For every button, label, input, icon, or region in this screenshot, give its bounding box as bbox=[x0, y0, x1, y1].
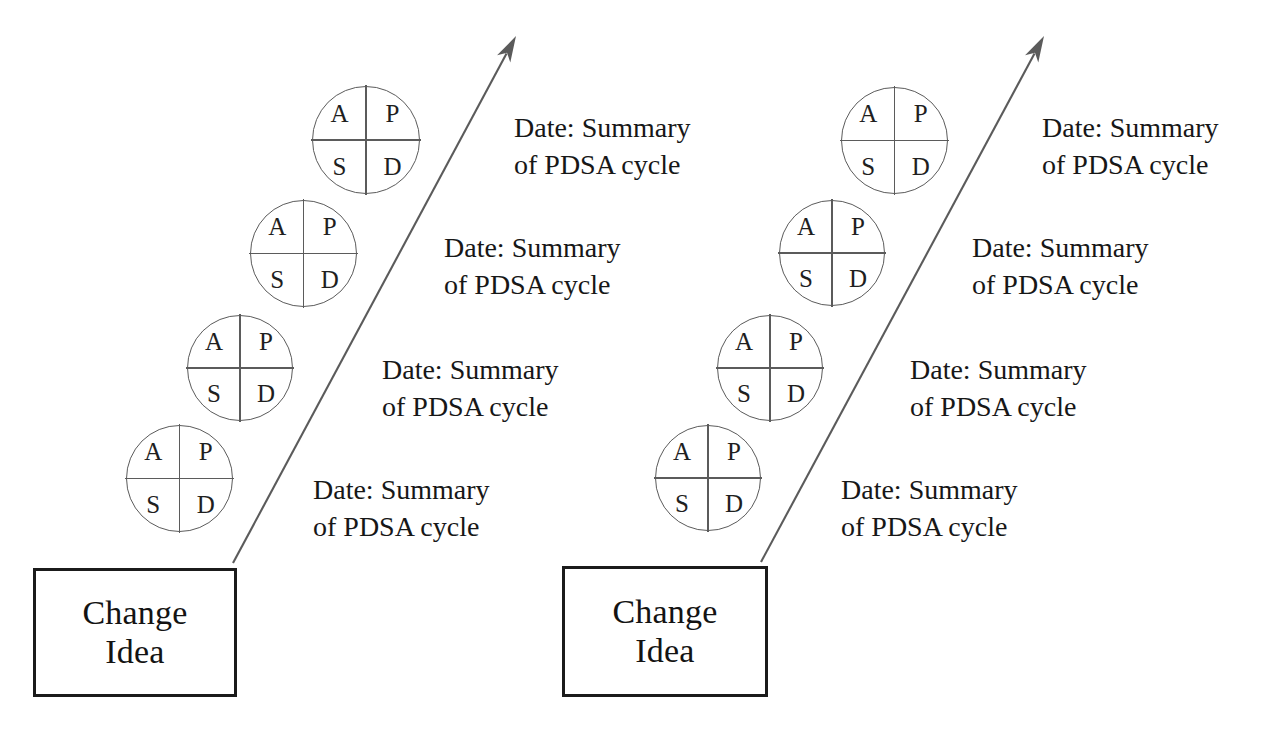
pdsa-cycle-summary: Date: Summaryof PDSA cycle bbox=[841, 472, 1018, 546]
pdsa-quadrant-act: A bbox=[780, 201, 832, 253]
ramp-group: APSDDate: Summaryof PDSA cycleAPSDDate: … bbox=[0, 0, 1267, 730]
pdsa-quadrant-plan: P bbox=[895, 88, 948, 141]
change-idea-line-2: Idea bbox=[635, 632, 694, 671]
pdsa-cycle-summary: Date: Summaryof PDSA cycle bbox=[1042, 110, 1219, 184]
summary-line-2: of PDSA cycle bbox=[841, 509, 1018, 546]
pdsa-cycle-circle: APSD bbox=[655, 425, 761, 531]
pdsa-quadrant-study: S bbox=[656, 478, 708, 530]
pdsa-quadrant-do: D bbox=[708, 478, 760, 530]
change-idea-line-1: Change bbox=[612, 593, 717, 632]
pdsa-quadrant-plan: P bbox=[708, 426, 760, 478]
summary-line-1: Date: Summary bbox=[972, 230, 1149, 267]
summary-line-2: of PDSA cycle bbox=[910, 389, 1087, 426]
arrow-head-icon bbox=[1025, 36, 1044, 62]
summary-line-1: Date: Summary bbox=[1042, 110, 1219, 147]
pdsa-quadrant-do: D bbox=[770, 368, 822, 420]
pdsa-ramp-diagram: APSDDate: Summaryof PDSA cycleAPSDDate: … bbox=[0, 0, 1267, 730]
pdsa-quadrant-act: A bbox=[656, 426, 708, 478]
pdsa-cycle-circle: APSD bbox=[717, 315, 823, 421]
pdsa-cycle-summary: Date: Summaryof PDSA cycle bbox=[972, 230, 1149, 304]
pdsa-cycle-circle: APSD bbox=[841, 87, 948, 194]
pdsa-quadrant-plan: P bbox=[770, 316, 822, 368]
pdsa-quadrant-plan: P bbox=[832, 201, 884, 253]
summary-line-2: of PDSA cycle bbox=[1042, 147, 1219, 184]
pdsa-cycle-circle: APSD bbox=[779, 200, 885, 306]
pdsa-cycle-summary: Date: Summaryof PDSA cycle bbox=[910, 352, 1087, 426]
pdsa-quadrant-do: D bbox=[832, 253, 884, 305]
pdsa-quadrant-do: D bbox=[895, 141, 948, 194]
summary-line-2: of PDSA cycle bbox=[972, 267, 1149, 304]
pdsa-quadrant-act: A bbox=[718, 316, 770, 368]
pdsa-quadrant-act: A bbox=[842, 88, 895, 141]
summary-line-1: Date: Summary bbox=[841, 472, 1018, 509]
summary-line-1: Date: Summary bbox=[910, 352, 1087, 389]
pdsa-quadrant-study: S bbox=[780, 253, 832, 305]
change-idea-box: ChangeIdea bbox=[562, 566, 768, 697]
pdsa-quadrant-study: S bbox=[718, 368, 770, 420]
pdsa-quadrant-study: S bbox=[842, 141, 895, 194]
